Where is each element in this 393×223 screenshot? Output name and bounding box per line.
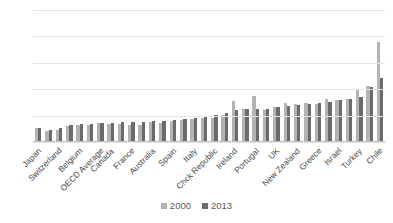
bar-2013 [142, 122, 145, 142]
bar-2013 [100, 123, 103, 142]
bar-group [188, 10, 198, 142]
bar-2013 [69, 125, 72, 142]
bar-2013 [370, 87, 373, 142]
bar-group [333, 10, 343, 142]
bar-group [74, 10, 84, 142]
bar-group [240, 10, 250, 142]
bar-group [64, 10, 74, 142]
bar-group [137, 10, 147, 142]
bar-2013 [204, 117, 207, 142]
bar-chart: 00.511.522.5 JapanSwitzerlandBelgiumOECD… [0, 0, 393, 223]
gridline [33, 89, 385, 90]
bar-2013 [194, 118, 197, 142]
bar-group [116, 10, 126, 142]
bar-2013 [256, 109, 259, 142]
gridline [33, 36, 385, 37]
bar-group [219, 10, 229, 142]
bar-2013 [359, 97, 362, 142]
bar-group [375, 10, 385, 142]
bar-group [209, 10, 219, 142]
bar-group [168, 10, 178, 142]
bar-group [106, 10, 116, 142]
bar-group [282, 10, 292, 142]
x-axis-tick-label: UK [266, 146, 281, 161]
bar-groups [33, 10, 385, 142]
bar-group [199, 10, 209, 142]
bar-group [54, 10, 64, 142]
bar-2013 [245, 109, 248, 142]
bar-group [85, 10, 95, 142]
bar-2013 [349, 99, 352, 142]
gridline [33, 142, 385, 143]
bar-2013 [380, 78, 383, 142]
bar-group [126, 10, 136, 142]
bar-2013 [318, 103, 321, 142]
legend-swatch-2000-icon [161, 203, 167, 209]
x-axis-tick-label: Spain [156, 146, 178, 168]
bar-group [271, 10, 281, 142]
bar-group [251, 10, 261, 142]
bar-group [261, 10, 271, 142]
bar-group [292, 10, 302, 142]
bar-2013 [183, 119, 186, 142]
bar-group [323, 10, 333, 142]
bar-2013 [111, 123, 114, 142]
bar-group [365, 10, 375, 142]
bar-2013 [266, 109, 269, 142]
bar-group [147, 10, 157, 142]
bar-group [302, 10, 312, 142]
bar-group [33, 10, 43, 142]
bar-2013 [173, 120, 176, 142]
bar-2013 [276, 107, 279, 142]
bar-2013 [225, 113, 228, 142]
x-axis-tick-label: Greece [297, 146, 323, 172]
legend-item-2013: 2013 [202, 200, 232, 211]
bar-2013 [297, 105, 300, 142]
bar-group [313, 10, 323, 142]
x-axis-labels: JapanSwitzerlandBelgiumOECD AverageCanad… [33, 144, 385, 202]
bar-2013 [287, 106, 290, 142]
bar-2013 [308, 104, 311, 142]
legend-swatch-2013-icon [202, 203, 208, 209]
bar-2013 [90, 124, 93, 142]
gridline [33, 63, 385, 64]
bar-group [157, 10, 167, 142]
bar-2013 [152, 121, 155, 142]
bar-2013 [121, 122, 124, 142]
bar-group [344, 10, 354, 142]
legend-label-2000: 2000 [170, 200, 191, 211]
bar-2013 [328, 102, 331, 142]
bar-group [95, 10, 105, 142]
bar-group [230, 10, 240, 142]
bar-2013 [162, 121, 165, 142]
x-axis-tick-label: Chile [364, 146, 385, 167]
bar-2013 [80, 124, 83, 142]
bar-group [178, 10, 188, 142]
legend-label-2013: 2013 [211, 200, 232, 211]
bar-group [43, 10, 53, 142]
bar-2013 [38, 128, 41, 142]
bar-group [354, 10, 364, 142]
gridline [33, 10, 385, 11]
bar-2013 [214, 115, 217, 142]
bar-2013 [339, 100, 342, 142]
gridline [33, 116, 385, 117]
x-axis-tick-label: Turkey [339, 146, 364, 171]
bar-2013 [59, 128, 62, 142]
legend-item-2000: 2000 [161, 200, 191, 211]
chart-legend: 2000 2013 [0, 200, 393, 211]
bar-2013 [131, 122, 134, 142]
plot-area [33, 10, 385, 142]
